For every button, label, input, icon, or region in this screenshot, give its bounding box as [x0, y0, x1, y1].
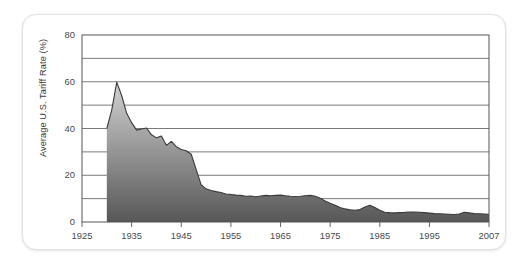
plot-area	[0, 0, 527, 263]
tariff-rate-area-chart: Average U.S. Tariff Rate (%) 020406080 1…	[0, 0, 527, 263]
x-axis-tick-marks	[82, 222, 489, 227]
